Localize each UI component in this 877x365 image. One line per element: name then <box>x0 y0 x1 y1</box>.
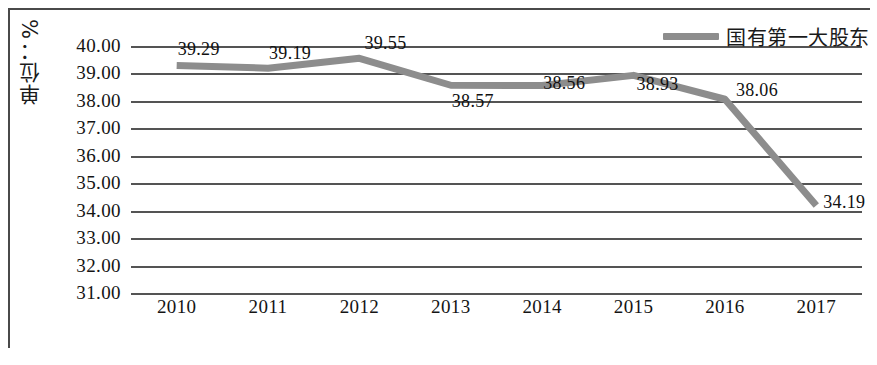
plot-area: 39.2939.1939.5538.5738.5638.9338.0634.19 <box>131 46 862 293</box>
x-axis-tick-labels: 20102011201220132014201520162017 <box>131 296 862 326</box>
y-axis-tick-label: 38.00 <box>76 90 121 112</box>
legend-label: 国有第一大股东 <box>726 22 870 51</box>
data-point-label: 38.57 <box>452 91 494 112</box>
y-axis-tick-label: 36.00 <box>76 145 121 167</box>
y-axis-tick-label: 33.00 <box>76 227 121 249</box>
data-point-label: 38.93 <box>637 74 679 95</box>
series-line <box>177 58 817 205</box>
x-axis-tick-label: 2011 <box>249 296 288 318</box>
data-point-label: 39.29 <box>178 39 220 60</box>
x-axis-tick-label: 2014 <box>522 296 562 318</box>
y-axis-tick-label: 35.00 <box>76 172 121 194</box>
x-axis-tick-label: 2012 <box>340 296 380 318</box>
y-axis-tick-labels: 40.0039.0038.0037.0036.0035.0034.0033.00… <box>42 46 126 293</box>
x-axis-tick-label: 2013 <box>431 296 471 318</box>
chart-container: 单位：% 40.0039.0038.0037.0036.0035.0034.00… <box>0 0 877 365</box>
y-axis-tick-label: 40.00 <box>76 35 121 57</box>
y-axis-tick-label: 32.00 <box>76 255 121 277</box>
x-axis-tick-label: 2010 <box>157 296 197 318</box>
data-point-label: 39.19 <box>269 43 311 64</box>
x-axis-tick-label: 2015 <box>614 296 654 318</box>
y-axis-tick-label: 37.00 <box>76 117 121 139</box>
y-axis-tick-label: 31.00 <box>76 282 121 304</box>
chart-legend: 国有第一大股东 <box>663 22 870 51</box>
y-axis-tick-label: 34.00 <box>76 200 121 222</box>
x-axis-tick-label: 2017 <box>797 296 837 318</box>
data-point-label: 34.19 <box>823 192 865 213</box>
data-point-label: 38.06 <box>736 80 778 101</box>
legend-line-swatch <box>663 33 719 40</box>
x-axis-tick-label: 2016 <box>705 296 745 318</box>
gridline <box>131 293 862 295</box>
data-point-label: 38.56 <box>543 72 585 93</box>
y-axis-tick-label: 39.00 <box>76 62 121 84</box>
data-point-label: 39.55 <box>364 33 406 54</box>
